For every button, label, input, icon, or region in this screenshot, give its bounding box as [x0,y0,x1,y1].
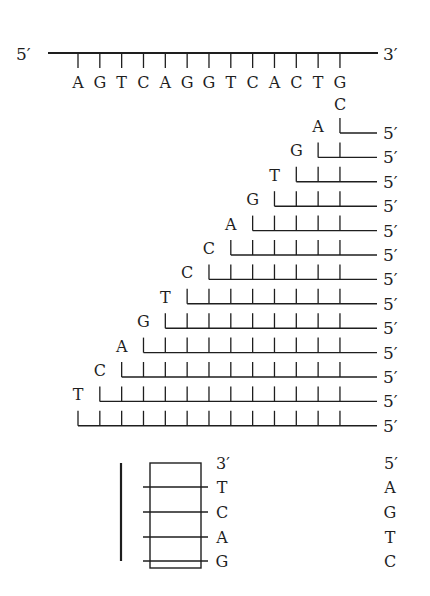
gel-bands [143,487,208,561]
template-base: G [93,73,106,92]
fragment-5prime-label: 5′ [383,147,398,167]
fragment-row: 5′ [78,411,398,436]
fragment-5prime-label: 5′ [383,318,398,338]
fragment-row: T5′ [160,288,398,314]
fragment-row: A5′ [115,337,398,363]
fragment-terminal-base: A [311,117,324,136]
gel-right-base: A [383,478,396,497]
fragment-5prime-label: 5′ [383,367,398,387]
template-5prime-label: 5′ [16,44,31,64]
fragment-5prime-label: 5′ [383,343,398,363]
fragment-terminal-base: C [181,263,193,282]
fragment-5prime-label: 5′ [383,221,398,241]
gel-right-bases: AGTC [383,478,396,571]
fragment-5prime-label: 5′ [383,269,398,289]
fragment-row: C5′ [94,361,398,387]
template-bases: AGTCAGGTCACTG [71,73,346,92]
gel-right-header: 5′ [384,454,398,473]
fragment-terminal-base: G [290,141,303,160]
template-base: A [71,73,84,92]
gel-right-base: G [384,503,397,522]
fragment-5prime-label: 5′ [383,245,398,265]
template-ticks [78,53,340,68]
template-base: T [225,73,236,92]
fragment-terminal-base: T [160,288,171,307]
gel-right-base: C [384,552,396,571]
complement-first-base: C [334,95,346,114]
template-base: G [203,73,216,92]
fragment-row: T5′ [73,385,398,411]
fragment-row: T5′ [269,166,398,192]
template-strand: 5′ 3′ AGTCAGGTCACTG [16,44,398,92]
template-base: T [116,73,127,92]
gel-left-base: T [217,478,228,497]
fragment-terminal-base: G [137,312,150,331]
fragment-5prime-label: 5′ [383,123,398,143]
template-base: G [334,73,347,92]
gel-left-base: A [215,528,228,547]
fragment-row: G5′ [246,190,398,216]
fragment-row: C5′ [203,239,398,265]
fragment-5prime-label: 5′ [383,172,398,192]
fragment-row: G5′ [137,312,398,338]
template-base: C [137,73,149,92]
fragment-terminal-base: A [224,215,237,234]
gel-right-base: T [385,528,396,547]
fragment-terminal-base: A [115,337,128,356]
fragment-terminal-base: C [203,239,215,258]
template-base: A [159,73,172,92]
template-base: A [268,73,281,92]
fragment-5prime-label: 5′ [383,294,398,314]
gel-lane-box [150,463,201,568]
template-3prime-label: 3′ [383,44,398,64]
gel-left-header: 3′ [216,454,230,473]
fragment-terminal-base: T [73,385,84,404]
template-base: T [313,73,324,92]
fragment-row: A5′ [311,117,397,143]
gel-readout: 3′ 5′ TCAG AGTC [121,454,398,571]
fragment-terminal-base: T [269,166,280,185]
fragment-5prime-label: 5′ [383,416,398,436]
gel-left-bases: TCAG [215,478,228,571]
template-base: G [181,73,194,92]
fragment-row: G5′ [290,141,398,167]
gel-left-base: C [216,503,228,522]
fragment-terminal-base: G [246,190,259,209]
fragment-terminal-base: C [94,361,106,380]
fragment-5prime-label: 5′ [383,391,398,411]
template-base: C [290,73,302,92]
synthesized-fragments: A5′G5′T5′G5′A5′C5′C5′T5′G5′A5′C5′T5′5′ [73,117,398,436]
fragment-row: A5′ [224,215,398,241]
gel-left-base: G [216,552,229,571]
dna-sequencing-diagram: 5′ 3′ AGTCAGGTCACTG C A5′G5′T5′G5′A5′C5′… [0,0,430,596]
fragment-row: C5′ [181,263,398,289]
template-base: C [247,73,259,92]
fragment-5prime-label: 5′ [383,196,398,216]
